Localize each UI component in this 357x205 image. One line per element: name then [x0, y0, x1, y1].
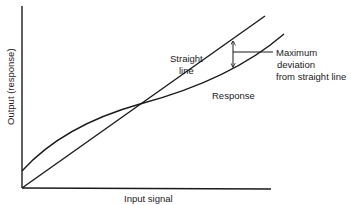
deviation-label-2: deviation: [277, 59, 315, 70]
x-axis: [22, 188, 271, 189]
straight-line-label-2: line: [179, 65, 194, 76]
response-label: Response: [212, 90, 255, 101]
y-axis-label: Output (response): [5, 48, 16, 125]
deviation-label-3: from straight line: [276, 71, 346, 82]
x-axis-label: Input signal: [124, 193, 173, 204]
response-curve: [22, 34, 284, 171]
deviation-label-1: Maximum: [276, 47, 317, 58]
linearity-diagram: Straight line Response Maximum deviation…: [0, 0, 357, 205]
straight-line: [22, 16, 265, 188]
straight-line-label-1: Straight: [170, 53, 203, 64]
